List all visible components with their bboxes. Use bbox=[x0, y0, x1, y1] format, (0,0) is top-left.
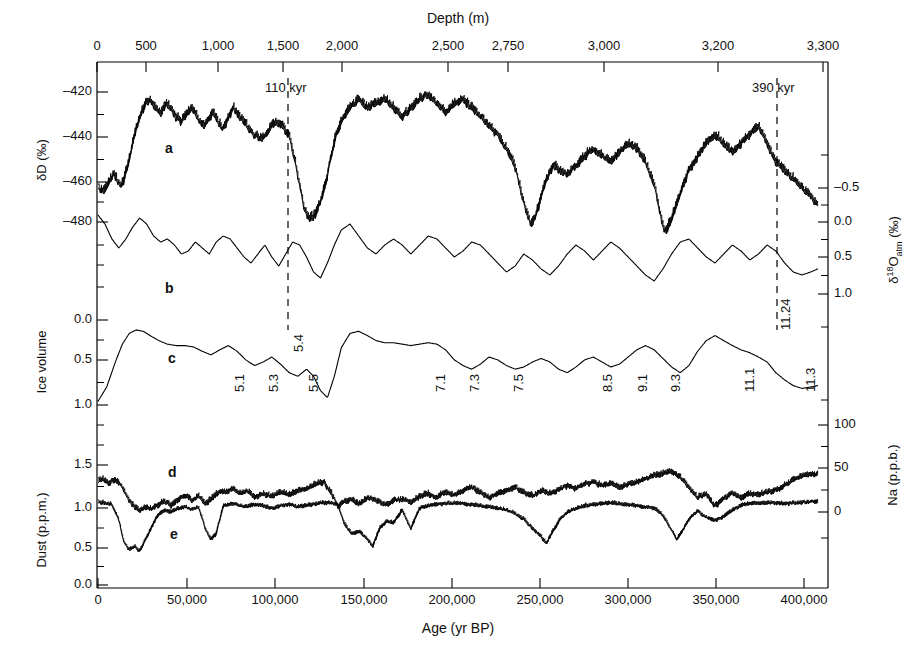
marine-isotope-stage-label: 11.24 bbox=[778, 298, 793, 330]
dust-tick-label: 0.5 bbox=[74, 539, 92, 554]
top-axis-title: Depth (m) bbox=[427, 10, 489, 26]
dust-tick-label: 1.0 bbox=[74, 499, 92, 514]
depth-tick-label: 1,500 bbox=[267, 38, 300, 53]
left-axis-dust-label: Dust (p.p.m.) bbox=[34, 492, 49, 567]
dust-tick-label: 0.0 bbox=[74, 576, 92, 591]
age-tick-label: 200,000 bbox=[429, 592, 476, 607]
panel-letter-b: b bbox=[165, 280, 174, 296]
depth-tick-label: 3,300 bbox=[807, 38, 840, 53]
marine-isotope-stage-label: 9.3 bbox=[668, 374, 683, 392]
age-tick-label: 0 bbox=[94, 592, 101, 607]
d18O-tick-label: 0.0 bbox=[834, 213, 852, 228]
ice-volume-tick-label: 0.0 bbox=[74, 311, 92, 326]
depth-tick-label: 2,500 bbox=[432, 38, 465, 53]
marine-isotope-stage-label: 7.1 bbox=[433, 374, 448, 392]
marine-isotope-stage-label: 8.5 bbox=[600, 374, 615, 392]
ice-volume-tick-label: 0.5 bbox=[74, 351, 92, 366]
age-tick-label: 400,000 bbox=[781, 592, 828, 607]
age-tick-label: 150,000 bbox=[341, 592, 388, 607]
age-tick-label: 350,000 bbox=[693, 592, 740, 607]
marine-isotope-stage-label: 11.3 bbox=[803, 368, 818, 392]
dD-tick-label: –460 bbox=[63, 173, 92, 188]
depth-tick-label: 0 bbox=[93, 38, 100, 53]
bottom-axis-title: Age (yr BP) bbox=[422, 620, 494, 636]
marine-isotope-stage-label: 9.1 bbox=[635, 374, 650, 392]
marine-isotope-stage-label: 5.4 bbox=[291, 334, 306, 352]
right-axis-d18O-label: δ18Oatm (‰) bbox=[885, 216, 904, 284]
marine-isotope-stage-label: 5.5 bbox=[306, 374, 321, 392]
dD-tick-label: –420 bbox=[63, 83, 92, 98]
series-e-curve bbox=[98, 499, 818, 551]
vostok-ice-core-chart bbox=[0, 0, 916, 662]
series-d-curve bbox=[98, 468, 818, 512]
panel-letter-c: c bbox=[168, 350, 176, 366]
dD-tick-label: –480 bbox=[63, 213, 92, 228]
series-a-curve bbox=[98, 92, 818, 234]
marine-isotope-stage-label: 11.1 bbox=[742, 368, 757, 392]
panel-letter-a: a bbox=[165, 140, 173, 156]
left-axis-dD-label: δD (‰) bbox=[34, 139, 49, 181]
d18O-tick-label: 1.0 bbox=[834, 285, 852, 300]
depth-tick-label: 2,000 bbox=[326, 38, 359, 53]
marker-label: 390 kyr bbox=[752, 80, 795, 95]
marker-label: 110 kyr bbox=[265, 80, 307, 95]
age-tick-label: 50,000 bbox=[167, 592, 207, 607]
marine-isotope-stage-label: 7.5 bbox=[511, 374, 526, 392]
marine-isotope-stage-label: 5.3 bbox=[266, 374, 281, 392]
marine-isotope-stage-label: 7.3 bbox=[467, 374, 482, 392]
left-axis-ice-volume-label: Ice volume bbox=[34, 331, 49, 394]
panel-letter-e: e bbox=[170, 526, 178, 542]
na-tick-label: 0 bbox=[834, 503, 841, 518]
na-tick-label: 50 bbox=[834, 459, 848, 474]
age-tick-label: 100,000 bbox=[252, 592, 299, 607]
series-b-curve bbox=[98, 215, 818, 281]
depth-tick-label: 1,000 bbox=[202, 38, 235, 53]
depth-tick-label: 3,200 bbox=[702, 38, 735, 53]
right-axis-na-label: Na (p.p.b.) bbox=[885, 444, 900, 505]
series-c-curve bbox=[98, 330, 818, 401]
depth-tick-label: 500 bbox=[135, 38, 157, 53]
dD-tick-label: –440 bbox=[63, 128, 92, 143]
age-tick-label: 300,000 bbox=[605, 592, 652, 607]
depth-tick-label: 3,000 bbox=[588, 38, 621, 53]
na-tick-label: 100 bbox=[834, 416, 856, 431]
d18O-tick-label: –0.5 bbox=[834, 179, 859, 194]
dust-tick-label: 1.5 bbox=[74, 456, 92, 471]
marine-isotope-stage-label: 5.1 bbox=[232, 374, 247, 392]
figure-container: 05001,0001,5002,0002,5002,7503,0003,2003… bbox=[0, 0, 916, 662]
depth-tick-label: 2,750 bbox=[492, 38, 525, 53]
panel-letter-d: d bbox=[168, 464, 177, 480]
d18O-tick-label: 0.5 bbox=[834, 248, 852, 263]
ice-volume-tick-label: 1.0 bbox=[74, 396, 92, 411]
age-tick-label: 250,000 bbox=[517, 592, 564, 607]
